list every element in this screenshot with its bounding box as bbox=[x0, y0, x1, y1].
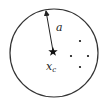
center-label-sub: c bbox=[52, 66, 56, 74]
center-label: xc bbox=[46, 60, 56, 74]
point bbox=[79, 40, 81, 42]
radius-arrow bbox=[46, 11, 53, 51]
diagram: a xc bbox=[0, 0, 104, 105]
radius-label: a bbox=[56, 21, 63, 34]
point bbox=[79, 66, 81, 68]
point bbox=[70, 55, 72, 57]
point bbox=[87, 55, 89, 57]
star-icon bbox=[48, 47, 57, 56]
points bbox=[70, 40, 89, 68]
